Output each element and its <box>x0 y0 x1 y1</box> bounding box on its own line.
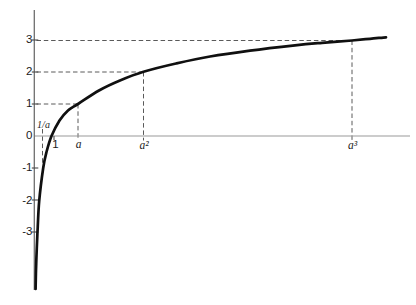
plot-svg <box>0 0 416 305</box>
logarithm-figure: 3210-1-2-31/a1aa²a³ <box>0 0 416 305</box>
log-curve <box>36 37 386 289</box>
